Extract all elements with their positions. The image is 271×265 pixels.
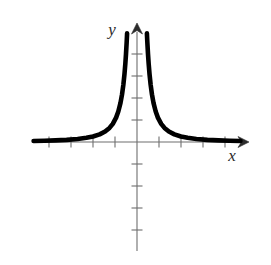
function-graph-figure: y x <box>0 0 271 265</box>
figure-background <box>0 0 271 265</box>
y-axis-label: y <box>106 20 116 39</box>
x-axis-label: x <box>227 146 236 165</box>
graph-canvas: y x <box>0 0 271 265</box>
